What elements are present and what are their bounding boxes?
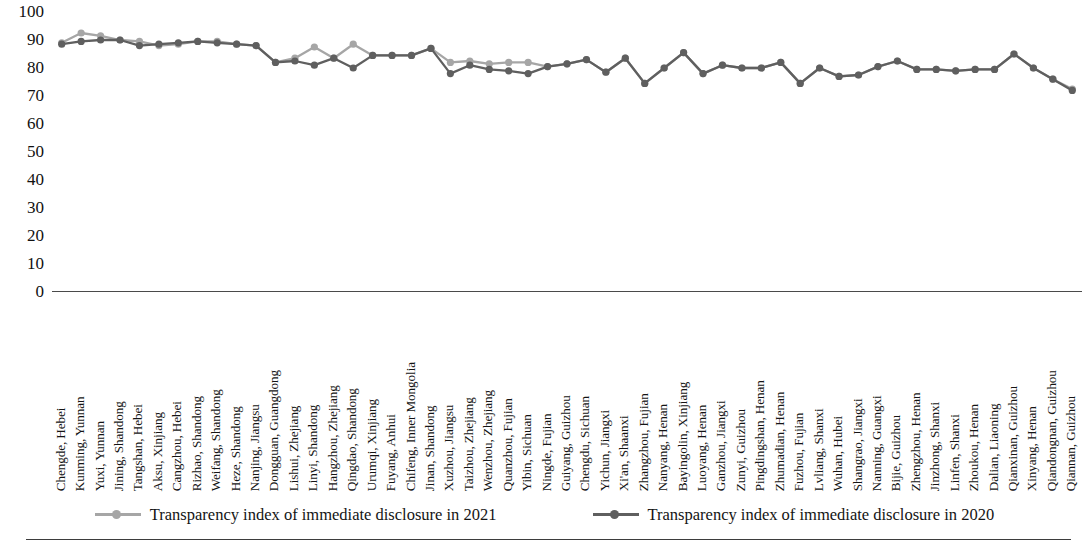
x-axis-tick-label: Yibin, Sichuan xyxy=(520,414,533,491)
x-axis-tick-label: Weifang, Shandong xyxy=(209,389,222,491)
data-point xyxy=(563,60,570,67)
x-axis-tick-label: Fuzhou, Fujian xyxy=(792,413,805,491)
x-axis-tick-label: Yuxi, Yunnan xyxy=(92,421,105,491)
data-point xyxy=(797,80,804,87)
data-point xyxy=(738,64,745,71)
data-point xyxy=(408,52,415,59)
data-point xyxy=(622,55,629,62)
x-axis-tick-label: Dongguan, Guangdong xyxy=(267,370,280,491)
data-point xyxy=(350,64,357,71)
data-point xyxy=(369,52,376,59)
data-point xyxy=(136,42,143,49)
data-point xyxy=(855,71,862,78)
data-point xyxy=(583,56,590,63)
data-point xyxy=(661,64,668,71)
data-point xyxy=(505,67,512,74)
data-point xyxy=(680,49,687,56)
x-axis-tick-label: Bijie, Guizhou xyxy=(889,415,902,491)
data-point xyxy=(427,45,434,52)
data-point xyxy=(291,57,298,64)
data-point xyxy=(602,69,609,76)
x-axis-tick-label: Heze, Shandong xyxy=(228,406,241,491)
y-axis-tick-50: 50 xyxy=(27,143,44,160)
x-axis-tick-label: Xi'an, Shaanxi xyxy=(617,415,630,491)
x-axis-tick-label: Ganzhou, Jiangxi xyxy=(714,400,727,491)
y-axis-tick-40: 40 xyxy=(27,171,44,188)
x-axis-tick-label: Zunyi, Guizhou xyxy=(734,409,747,491)
data-point xyxy=(525,59,532,66)
x-axis-tick-label: Qiannan, Guizhou xyxy=(1064,396,1077,491)
data-point xyxy=(78,38,85,45)
x-axis-tick-label: Quanzhou, Fujian xyxy=(500,398,513,491)
x-axis-tick-label: Zhangzhou, Fujian xyxy=(637,393,650,491)
data-point xyxy=(758,64,765,71)
x-axis-tick-label: Lvliang, Shanxi xyxy=(811,408,824,491)
data-point xyxy=(1010,50,1017,57)
x-axis-line xyxy=(52,291,1082,292)
data-point xyxy=(952,67,959,74)
x-axis-tick-label: Chengde, Hebei xyxy=(54,407,67,491)
legend-swatch-icon xyxy=(95,508,141,520)
x-axis-tick-label: Xuzhou, Jiangsu xyxy=(442,405,455,491)
x-axis-tick-label: Hangzhou, Zhejiang xyxy=(326,385,339,491)
x-axis-tick-label: Chengdu, Sichuan xyxy=(578,396,591,491)
line-chart: 1009080706050403020100 Chengde, HebeiKun… xyxy=(0,0,1089,547)
data-point xyxy=(447,59,454,66)
data-point xyxy=(1030,64,1037,71)
x-axis-tick-label: Fuyang, Anhui xyxy=(384,414,397,491)
data-point xyxy=(991,66,998,73)
data-point xyxy=(350,41,357,48)
data-point xyxy=(58,41,65,48)
data-point xyxy=(816,64,823,71)
y-axis-tick-100: 100 xyxy=(19,3,45,20)
x-axis-tick-label: Bayingolin, Xinjiang xyxy=(675,382,688,491)
x-axis-tick-label: Chifeng, Inner Mongolia xyxy=(403,362,416,491)
y-axis-tick-70: 70 xyxy=(27,87,44,104)
x-axis-tick-label: Qiandongnan, Guizhou xyxy=(1045,370,1058,491)
y-axis-tick-20: 20 xyxy=(27,227,44,244)
x-axis-tick-label: Luoyang, Henan xyxy=(695,405,708,492)
x-axis-tick-label: Cangzhou, Hebei xyxy=(170,401,183,491)
data-point xyxy=(155,41,162,48)
x-axis-tick-label: Jinan, Shandong xyxy=(423,405,436,491)
data-point xyxy=(272,59,279,66)
x-axis-tick-label: Nanjing, Jiangsu xyxy=(248,404,261,491)
legend-label: Transparency index of immediate disclosu… xyxy=(648,506,995,523)
data-point xyxy=(330,55,337,62)
y-axis-tick-0: 0 xyxy=(36,283,45,300)
x-axis-tick-label: Xinyang, Henan xyxy=(1025,406,1038,491)
x-axis-tick-label: Nanyang, Henan xyxy=(656,404,669,491)
x-axis-tick-label: Pingdingshan, Henan xyxy=(753,380,766,491)
x-axis-tick-label: Dalian, Liaoning xyxy=(986,403,999,491)
x-axis-tick-label: Jinzhong, Shanxi xyxy=(928,402,941,491)
legend-item-2020[interactable]: Transparency index of immediate disclosu… xyxy=(593,506,995,523)
x-axis-tick-label: Ningde, Fujian xyxy=(539,413,552,491)
x-axis-tick-label: Urumqi, Xinjiang xyxy=(364,399,377,491)
data-point xyxy=(78,29,85,36)
data-point xyxy=(252,42,259,49)
data-point xyxy=(116,36,123,43)
y-axis-tick-90: 90 xyxy=(27,31,44,48)
series-2020 xyxy=(58,36,1076,94)
data-point xyxy=(97,36,104,43)
data-point xyxy=(1049,76,1056,83)
data-point xyxy=(933,66,940,73)
data-point xyxy=(835,73,842,80)
data-point xyxy=(699,70,706,77)
legend-item-2021[interactable]: Transparency index of immediate disclosu… xyxy=(95,506,497,523)
x-axis-tick-label: Zhengzhou, Henan xyxy=(909,392,922,491)
y-axis-tick-80: 80 xyxy=(27,59,44,76)
data-point xyxy=(525,70,532,77)
series-canvas xyxy=(52,12,1082,292)
data-point xyxy=(311,43,318,50)
x-axis-tick-label: Tangshan, Hebei xyxy=(131,404,144,491)
x-axis-tick-label: Rizhao, Shandong xyxy=(190,396,203,491)
data-point xyxy=(1069,87,1076,94)
data-point xyxy=(311,62,318,69)
x-axis-tick-label: Shangrao, Jiangxi xyxy=(850,398,863,491)
x-axis-tick-label: Jining, Shandong xyxy=(112,401,125,491)
x-axis-tick-label: Guiyang, Guizhou xyxy=(559,395,572,491)
legend-label: Transparency index of immediate disclosu… xyxy=(150,506,497,523)
y-axis: 1009080706050403020100 xyxy=(0,0,44,300)
data-point xyxy=(777,59,784,66)
